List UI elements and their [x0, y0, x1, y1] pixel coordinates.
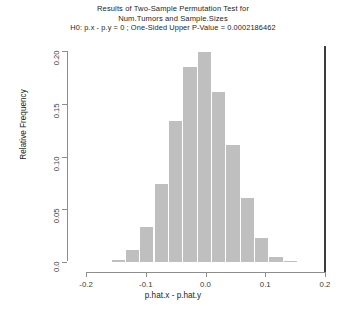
- histogram-bar: [198, 52, 211, 262]
- y-axis-tick-label: 0.0: [52, 262, 61, 318]
- observed-statistic-line: [324, 46, 325, 272]
- permutation-test-histogram: Results of Two-Sample Permutation Test f…: [0, 0, 346, 320]
- histogram-bar: [255, 238, 268, 262]
- histogram-bar: [140, 227, 153, 262]
- x-axis-tick: [146, 272, 147, 277]
- y-axis-tick-label: 0.10: [52, 156, 61, 212]
- histogram-bar: [269, 257, 282, 262]
- histogram-bar: [241, 198, 254, 262]
- y-axis-tick-label: 0.05: [52, 209, 61, 265]
- y-axis-tick-label: 0.15: [52, 103, 61, 159]
- x-axis-tick: [86, 272, 87, 277]
- chart-subtitle-hypothesis: H0: p.x - p.y = 0 ; One-Sided Upper P-Va…: [0, 23, 346, 33]
- x-axis-tick-label: -0.2: [66, 280, 106, 289]
- chart-title-line-1: Results of Two-Sample Permutation Test f…: [0, 4, 346, 14]
- histogram-bar: [155, 184, 168, 262]
- x-axis-tick-label: 0.2: [305, 280, 345, 289]
- plot-panel: [68, 50, 330, 262]
- x-axis-tick: [325, 272, 326, 277]
- y-axis-tick-label: 0.20: [52, 51, 61, 107]
- histogram-bars: [68, 50, 330, 262]
- histogram-bar: [169, 121, 182, 262]
- y-axis-tick: [62, 262, 67, 263]
- histogram-bar: [212, 92, 225, 262]
- histogram-bar: [126, 250, 139, 262]
- y-axis-title: Relative Frequency: [19, 55, 28, 195]
- x-axis-tick-label: 0.0: [186, 280, 226, 289]
- chart-title-block: Results of Two-Sample Permutation Test f…: [0, 4, 346, 33]
- x-axis-tick: [265, 272, 266, 277]
- y-axis-tick: [62, 209, 67, 210]
- y-axis-tick: [62, 104, 67, 105]
- chart-title-line-2: Num.Tumors and Sample.Sizes: [0, 14, 346, 24]
- x-axis-tick: [206, 272, 207, 277]
- x-axis-tick-label: -0.1: [126, 280, 166, 289]
- y-axis-tick: [62, 51, 67, 52]
- histogram-bar: [183, 67, 196, 262]
- y-axis-tick: [62, 157, 67, 158]
- x-axis-tick-label: 0.1: [245, 280, 285, 289]
- histogram-bar: [112, 260, 125, 262]
- histogram-bar: [284, 261, 297, 262]
- histogram-bar: [226, 145, 239, 262]
